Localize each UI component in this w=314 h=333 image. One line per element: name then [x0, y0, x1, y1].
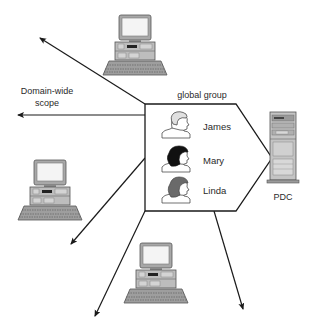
workstation-left-icon [18, 160, 82, 220]
pdc-label: PDC [273, 192, 293, 202]
pdc-server-icon [267, 112, 299, 183]
workstation-top-icon [103, 15, 167, 75]
arrow-down-right [214, 211, 243, 309]
diagram-canvas: global group Domain-wide scope James Mar… [0, 0, 314, 333]
scope-label-line2: scope [35, 98, 59, 108]
scope-label-line1: Domain-wide [21, 86, 74, 96]
global-group-label: global group [177, 90, 227, 100]
member-name-linda: Linda [203, 185, 227, 196]
member-name-james: James [203, 121, 231, 132]
workstation-bottom-icon [124, 243, 188, 303]
member-name-mary: Mary [203, 155, 224, 166]
arrow-down-left [71, 158, 145, 244]
